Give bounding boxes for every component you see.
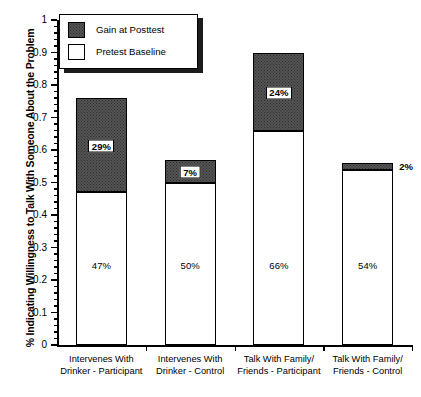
bar-4-baseline-segment: 54%	[342, 170, 393, 346]
plot-area: 00.10.20.30.40.50.60.70.80.91 29%47%7%50…	[57, 20, 412, 345]
x-axis-label-3: Talk With Family/Friends - Participant	[235, 354, 324, 377]
y-tick-minor	[54, 156, 58, 157]
x-axis-label-4-line-2: Friends - Control	[323, 366, 412, 378]
bar-4-baseline-label: 54%	[358, 261, 377, 271]
y-tick-major	[51, 344, 57, 345]
y-tick-minor	[54, 201, 58, 202]
y-tick-minor	[54, 110, 58, 111]
y-tick-minor	[54, 325, 58, 326]
y-tick-minor	[54, 234, 58, 235]
stacked-bar-chart: % Indicating Willingness to Talk With So…	[0, 0, 421, 397]
y-tick-major	[51, 182, 57, 183]
bar-3-baseline-segment: 66%	[253, 131, 304, 346]
y-tick-minor	[54, 162, 58, 163]
bar-2-gain-segment: 7%	[165, 160, 216, 183]
y-tick-major	[51, 149, 57, 150]
y-tick-minor	[54, 221, 58, 222]
y-tick-minor	[54, 305, 58, 306]
y-tick-minor	[54, 58, 58, 59]
bar-1-baseline-segment: 47%	[76, 192, 127, 345]
bar-3: 24%66%	[253, 53, 304, 346]
x-axis-label-3-line-1: Talk With Family/	[235, 354, 324, 366]
y-tick-minor	[54, 175, 58, 176]
y-tick-minor	[54, 240, 58, 241]
x-axis-label-4-line-1: Talk With Family/	[323, 354, 412, 366]
y-tick-minor	[54, 97, 58, 98]
x-axis-label-1: Intervenes WithDrinker - Participant	[57, 354, 146, 377]
y-tick-minor	[54, 39, 58, 40]
x-axis-separator-tick	[146, 345, 147, 351]
y-tick-minor	[54, 169, 58, 170]
x-axis-separator-tick	[323, 345, 324, 351]
x-axis-separator-tick	[235, 345, 236, 351]
x-axis-label-4: Talk With Family/Friends - Control	[323, 354, 412, 377]
y-tick-minor	[54, 104, 58, 105]
x-axis-label-1-line-2: Drinker - Participant	[57, 366, 146, 378]
y-tick-minor	[54, 318, 58, 319]
y-tick-major	[51, 312, 57, 313]
y-tick-minor	[54, 130, 58, 131]
y-tick-minor	[54, 136, 58, 137]
bar-3-baseline-label: 66%	[269, 261, 288, 271]
y-tick-label: 0.3	[33, 243, 47, 253]
y-tick-minor	[54, 123, 58, 124]
bar-4: 2%54%	[342, 163, 393, 345]
y-tick-major	[51, 84, 57, 85]
y-tick-minor	[54, 331, 58, 332]
x-axis-separator-tick	[412, 345, 413, 351]
y-tick-minor	[54, 260, 58, 261]
y-tick-label: 0.2	[33, 275, 47, 285]
x-axis-label-2: Intervenes WithDrinker - Control	[146, 354, 235, 377]
y-tick-minor	[54, 188, 58, 189]
y-tick-major	[51, 214, 57, 215]
bar-3-gain-label: 24%	[266, 86, 292, 99]
y-tick-label: 0.1	[33, 308, 47, 318]
y-tick-minor	[54, 253, 58, 254]
bar-2-baseline-segment: 50%	[165, 183, 216, 346]
x-axis-label-2-line-2: Drinker - Control	[146, 366, 235, 378]
y-tick-major	[51, 117, 57, 118]
y-tick-minor	[54, 208, 58, 209]
y-tick-minor	[54, 143, 58, 144]
bar-1-gain-label: 29%	[88, 140, 114, 153]
y-tick-minor	[54, 273, 58, 274]
y-tick-minor	[54, 91, 58, 92]
y-tick-label: 0.8	[33, 80, 47, 90]
y-axis-line	[57, 20, 59, 345]
y-tick-minor	[54, 26, 58, 27]
x-axis-label-3-line-2: Friends - Participant	[235, 366, 324, 378]
y-tick-minor	[54, 78, 58, 79]
bar-1-gain-segment: 29%	[76, 98, 127, 192]
y-tick-label: 0.5	[33, 178, 47, 188]
y-tick-major	[51, 247, 57, 248]
bar-2-baseline-label: 50%	[181, 261, 200, 271]
x-axis-label-2-line-1: Intervenes With	[146, 354, 235, 366]
y-tick-minor	[54, 292, 58, 293]
y-tick-major	[51, 279, 57, 280]
y-tick-label: 0	[41, 340, 47, 350]
y-tick-minor	[54, 338, 58, 339]
y-tick-minor	[54, 65, 58, 66]
y-tick-label: 0.6	[33, 145, 47, 155]
y-tick-minor	[54, 32, 58, 33]
y-tick-minor	[54, 195, 58, 196]
y-tick-major	[51, 19, 57, 20]
y-tick-minor	[54, 71, 58, 72]
bar-1-baseline-label: 47%	[92, 261, 111, 271]
y-tick-label: 1	[41, 15, 47, 25]
bar-1: 29%47%	[76, 98, 127, 345]
y-tick-minor	[54, 227, 58, 228]
x-axis-label-1-line-1: Intervenes With	[57, 354, 146, 366]
bar-4-gain-label: 2%	[399, 162, 413, 172]
y-tick-label: 0.4	[33, 210, 47, 220]
bar-3-gain-segment: 24%	[253, 53, 304, 131]
bar-2: 7%50%	[165, 160, 216, 345]
y-tick-label: 0.7	[33, 113, 47, 123]
y-tick-minor	[54, 45, 58, 46]
y-tick-major	[51, 52, 57, 53]
y-tick-minor	[54, 299, 58, 300]
y-tick-minor	[54, 286, 58, 287]
y-tick-label: 0.9	[33, 48, 47, 58]
bar-2-gain-label: 7%	[180, 166, 201, 179]
y-tick-minor	[54, 266, 58, 267]
